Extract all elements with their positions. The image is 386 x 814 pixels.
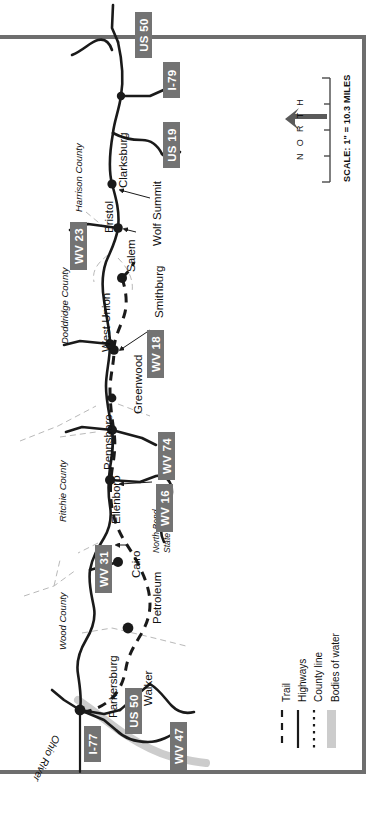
map-legend: Trail Highways County line Bodies of wat… [272, 648, 362, 778]
shield-wv74[interactable]: WV 74 [158, 432, 175, 480]
place-label: Parkersburg [108, 655, 120, 718]
county-label: Harrison County [74, 143, 84, 212]
place-label: Clarksburg [118, 132, 130, 188]
scale-label: SCALE: 1" = 10.3 MILES [343, 75, 352, 182]
shield-wv23[interactable]: WV 23 [70, 222, 87, 270]
shield-i79[interactable]: I-79 [163, 62, 180, 98]
place-label: Petroleum [152, 572, 164, 624]
legend-label-county-line: County line [314, 652, 324, 702]
place-label: Pennsboro [103, 414, 115, 470]
county-label: Doddridge County [60, 267, 70, 344]
legend-label-trail: Trail [282, 683, 292, 702]
scale-bar [322, 78, 330, 182]
shield-wv47[interactable]: WV 47 [170, 722, 187, 770]
shield-wv31[interactable]: WV 31 [95, 545, 112, 593]
shield-us50-north[interactable]: US 50 [135, 12, 152, 58]
place-label: Ellenboro [111, 475, 123, 524]
shield-us50-south[interactable]: US 50 [125, 688, 142, 734]
place-label: Smithburg [154, 266, 166, 318]
highway-network [52, 5, 194, 772]
place-label: Cairo [131, 551, 143, 578]
legend-swatch-water [327, 710, 336, 748]
shield-wv18[interactable]: WV 18 [147, 330, 164, 378]
place-label: Walker [143, 671, 155, 706]
place-label: Salem [126, 239, 138, 272]
place-label: Greenwood [133, 355, 145, 414]
place-label: Bristol [104, 201, 116, 233]
north-label: N O R T H [296, 97, 305, 160]
shield-wv16[interactable]: WV 16 [156, 484, 173, 532]
shield-i77[interactable]: I-77 [84, 726, 101, 762]
county-label: Ritchie County [58, 460, 68, 522]
map-root: Clarksburg Bristol Wolf Summit Salem Smi… [0, 0, 386, 814]
legend-label-highways: Highways [298, 659, 308, 702]
shield-us19[interactable]: US 19 [163, 122, 180, 168]
north-arrow-icon [285, 108, 327, 130]
place-label: West Union [101, 293, 113, 352]
county-label: Wood County [58, 592, 68, 650]
place-label: Wolf Summit [152, 181, 164, 246]
legend-label-water: Bodies of water [331, 633, 341, 702]
